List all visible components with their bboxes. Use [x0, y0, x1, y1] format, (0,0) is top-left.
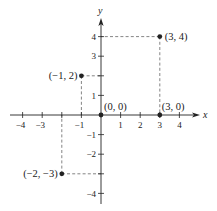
data-point-label: (−1, 2)	[49, 70, 78, 82]
data-point-marker	[157, 34, 162, 39]
data-point-label: (3, 4)	[165, 31, 188, 43]
data-point-marker	[79, 73, 84, 78]
data-point-marker	[59, 171, 64, 176]
y-tick-label: 1	[92, 91, 97, 101]
y-tick-label: −1	[86, 130, 96, 140]
y-axis-label: y	[97, 5, 103, 16]
x-tick-label: 4	[177, 120, 182, 130]
x-tick-label: −1	[75, 120, 85, 130]
y-tick-label: 3	[92, 51, 97, 61]
data-point-label: (3, 0)	[162, 101, 185, 113]
y-tick-label: 4	[92, 32, 97, 42]
data-point-marker	[99, 113, 104, 118]
coordinate-plane: −4−3−11234−4−2−1134 (3, 4)(−1, 2)(0, 0)(…	[0, 0, 217, 211]
y-tick-label: −2	[86, 149, 96, 159]
x-tick-label: 3	[158, 120, 163, 130]
data-point-label: (0, 0)	[104, 101, 127, 113]
data-point-label: (−2, −3)	[23, 168, 58, 180]
x-tick-label: −4	[16, 120, 26, 130]
y-tick-label: −4	[86, 189, 96, 199]
data-points: (3, 4)(−1, 2)(0, 0)(3, 0)(−2, −3)	[23, 31, 188, 180]
x-axis-label: x	[202, 109, 208, 120]
data-point-marker	[157, 113, 162, 118]
x-tick-label: 1	[118, 120, 123, 130]
x-tick-label: −3	[35, 120, 45, 130]
x-tick-label: 2	[138, 120, 143, 130]
